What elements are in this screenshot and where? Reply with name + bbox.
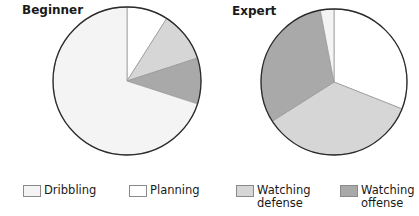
- expert-pie: [261, 9, 407, 155]
- dribbling-swatch: [23, 185, 41, 197]
- legend-watching-offense: Watching offense: [340, 184, 415, 210]
- planning-swatch: [129, 185, 147, 197]
- legend-label: Dribbling: [44, 184, 96, 197]
- legend-planning: Planning: [129, 184, 200, 197]
- watching-offense-swatch: [340, 185, 358, 197]
- legend-label: Planning: [150, 184, 200, 197]
- legend-dribbling: Dribbling: [23, 184, 96, 197]
- legend-watching-defense: Watching defense: [236, 184, 311, 210]
- legend-label-line2: defense: [257, 197, 311, 210]
- watching-defense-swatch: [236, 185, 254, 197]
- beginner-pie: [53, 7, 201, 155]
- legend-label-line2: offense: [361, 197, 415, 210]
